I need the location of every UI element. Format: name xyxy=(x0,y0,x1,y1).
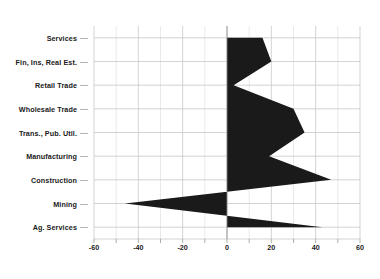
x-axis-tick-label: -20 xyxy=(177,243,187,252)
y-axis-tick-mark xyxy=(80,38,88,39)
y-axis-tick-mark xyxy=(80,156,88,157)
y-axis-tick-label: Fin, Ins, Real Est. xyxy=(0,57,88,66)
y-axis-tick-mark xyxy=(80,62,88,63)
x-axis-tick-label: 40 xyxy=(312,243,320,252)
x-axis-tick-label: 60 xyxy=(356,243,364,252)
x-axis-labels: -60-40-200204060 xyxy=(94,243,360,257)
y-axis-tick-label: Construction xyxy=(0,175,88,184)
y-axis-tick-mark xyxy=(80,109,88,110)
y-axis-tick-label: Trans., Pub. Util. xyxy=(0,128,88,137)
y-axis-tick-label: Services xyxy=(0,33,88,42)
y-axis-tick-label: Mining xyxy=(0,199,88,208)
y-axis-tick-label: Retail Trade xyxy=(0,81,88,90)
series-area-layer xyxy=(94,26,360,239)
x-axis-tick-label: 0 xyxy=(225,243,229,252)
y-axis-tick-mark xyxy=(80,227,88,228)
x-axis-tick-label: 20 xyxy=(267,243,275,252)
y-axis-tick-mark xyxy=(80,180,88,181)
series-area xyxy=(125,38,331,227)
y-axis-tick-label: Manufacturing xyxy=(0,152,88,161)
plot-area xyxy=(94,26,360,239)
y-axis-tick-label: Ag. Services xyxy=(0,223,88,232)
chart-container: ServicesFin, Ins, Real Est.Retail TradeW… xyxy=(0,0,380,279)
y-axis-labels: ServicesFin, Ins, Real Est.Retail TradeW… xyxy=(0,26,88,239)
y-axis-tick-mark xyxy=(80,133,88,134)
x-axis-tick-label: -40 xyxy=(133,243,143,252)
y-axis-tick-label: Wholesale Trade xyxy=(0,104,88,113)
y-axis-tick-mark xyxy=(80,204,88,205)
y-axis-tick-mark xyxy=(80,85,88,86)
x-axis-tick-label: -60 xyxy=(89,243,99,252)
